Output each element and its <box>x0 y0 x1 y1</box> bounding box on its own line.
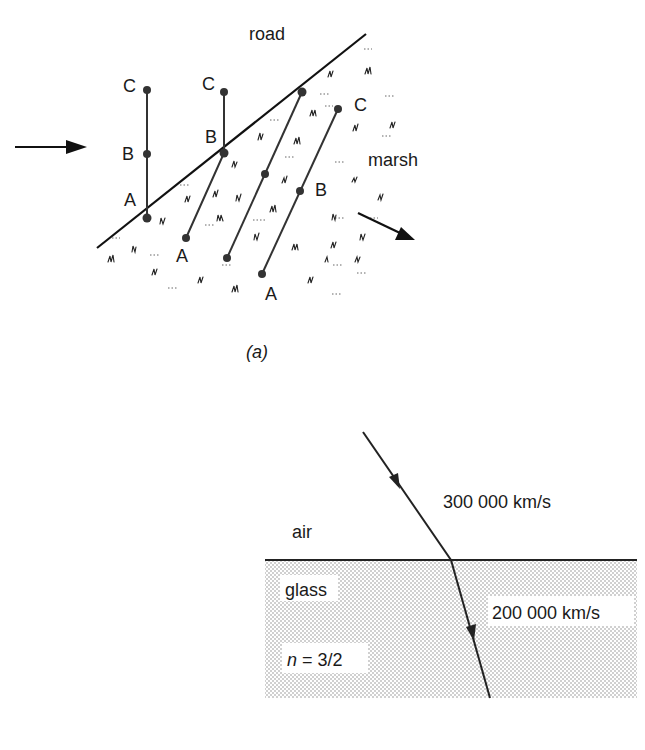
speed-in-glass-label: 200 000 km/s <box>492 603 600 623</box>
figure-b-light-refraction: air 300 000 km/s glass 200 000 km/s n = … <box>265 432 637 698</box>
point-a <box>143 214 152 223</box>
speed-in-air-label: 300 000 km/s <box>443 492 551 512</box>
point-b <box>220 149 229 158</box>
label-b: B <box>205 127 217 147</box>
label-a: A <box>265 284 277 304</box>
figure-a-caption: (a) <box>246 342 268 362</box>
soldier-column-2: C B A <box>176 74 229 266</box>
point-b <box>143 150 151 158</box>
label-c: C <box>354 95 367 115</box>
label-c: C <box>123 76 136 96</box>
marsh-grass-texture <box>108 49 395 294</box>
point-c <box>220 88 228 96</box>
soldier-column-1: C B A <box>122 76 152 223</box>
refraction-analogy-figure: C B A C B A C B A <box>0 0 645 750</box>
ray-arrow-icon <box>389 473 400 489</box>
road-label: road <box>249 24 285 44</box>
point-a <box>223 254 231 262</box>
point-a <box>182 234 190 242</box>
point-b <box>296 187 304 195</box>
label-c: C <box>202 74 215 94</box>
label-a: A <box>124 190 136 210</box>
point-b <box>261 170 269 178</box>
glass-label: glass <box>285 580 327 600</box>
air-label: air <box>292 522 312 542</box>
figure-a-marching-soldiers: C B A C B A C B A <box>15 24 418 362</box>
refractive-index-label: n = 3/2 <box>287 650 343 670</box>
outgoing-direction-arrow-icon <box>358 213 415 240</box>
point-c <box>143 86 151 94</box>
point-a <box>258 270 266 278</box>
soldier-column-4: C B A <box>258 95 367 304</box>
point-c <box>298 88 307 97</box>
incident-ray <box>363 432 451 560</box>
label-b: B <box>122 144 134 164</box>
incoming-direction-arrow-icon <box>15 140 87 154</box>
index-variable: n <box>287 650 297 670</box>
index-value: = 3/2 <box>297 650 343 670</box>
road-edge-line <box>97 34 366 248</box>
point-c <box>334 105 342 113</box>
label-b: B <box>315 180 327 200</box>
marsh-label: marsh <box>368 150 418 170</box>
label-a: A <box>176 246 188 266</box>
